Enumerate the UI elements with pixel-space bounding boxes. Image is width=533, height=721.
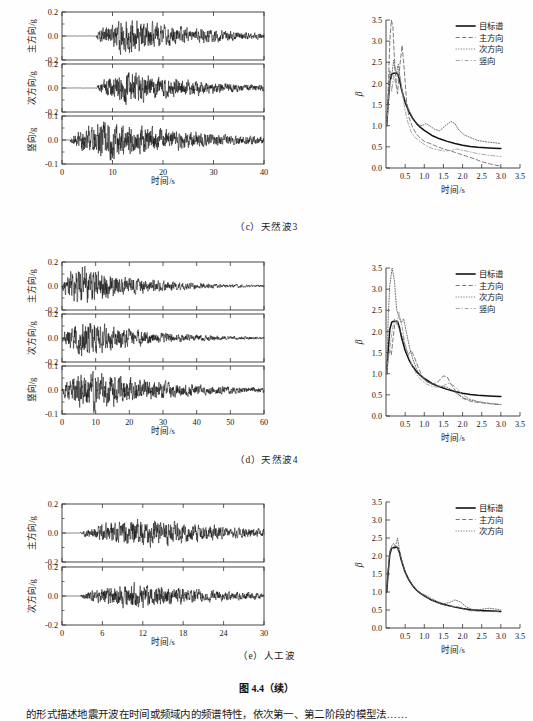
legend: 目标谱主方向次方向竖向 (456, 21, 504, 65)
svg-text:0.0: 0.0 (48, 529, 58, 538)
accel-trace-竖向 (62, 366, 264, 414)
legend-label-目标谱: 目标谱 (479, 21, 504, 31)
spectrum-column-c: 0.00.51.01.52.02.53.03.50.51.01.52.02.53… (352, 10, 530, 202)
svg-text:2.5: 2.5 (477, 632, 487, 641)
svg-text:-0.2: -0.2 (45, 621, 58, 630)
svg-text:0.5: 0.5 (400, 420, 410, 429)
svg-text:0.0: 0.0 (48, 136, 58, 145)
series-主方向 (387, 547, 501, 612)
panel-caption-c: （c）天然波3 (0, 219, 533, 233)
series-目标谱 (387, 73, 501, 148)
svg-text:2.0: 2.0 (372, 328, 382, 337)
svg-text:0.2: 0.2 (48, 563, 58, 572)
svg-text:40: 40 (193, 418, 201, 427)
svg-text:2.0: 2.0 (457, 172, 467, 181)
response-spectrum-chart-c: 0.00.51.01.52.02.53.03.50.51.01.52.02.53… (352, 10, 530, 202)
svg-text:3.0: 3.0 (372, 285, 382, 294)
svg-text:时间/s: 时间/s (151, 425, 175, 436)
svg-text:0.0: 0.0 (48, 282, 58, 291)
svg-text:0.0: 0.0 (48, 334, 58, 343)
svg-text:0.5: 0.5 (372, 606, 382, 615)
svg-text:0.2: 0.2 (48, 8, 58, 17)
svg-text:0.5: 0.5 (400, 632, 410, 641)
panel-caption-d: （d）天然波4 (0, 452, 533, 466)
svg-text:2.5: 2.5 (372, 306, 382, 315)
legend-label-次方向: 次方向 (479, 44, 503, 54)
svg-text:竖向/g: 竖向/g (26, 377, 37, 402)
svg-text:0.0: 0.0 (48, 386, 58, 395)
svg-text:1.0: 1.0 (419, 632, 429, 641)
svg-text:2.5: 2.5 (372, 58, 382, 67)
svg-text:3.0: 3.0 (496, 420, 506, 429)
svg-text:3.5: 3.5 (515, 632, 525, 641)
legend-label-竖向: 竖向 (479, 304, 495, 314)
accel-trace-次方向 (62, 314, 264, 362)
svg-text:时间/s: 时间/s (441, 184, 465, 195)
legend-label-主方向: 主方向 (479, 281, 503, 291)
accelerogram-group-e: 0.20.0-0.2主方向/g0.20.0-0.2次方向/g0612182430… (24, 498, 272, 647)
svg-text:0.0: 0.0 (48, 32, 58, 41)
legend: 目标谱主方向次方向竖向 (456, 269, 504, 314)
svg-text:3.0: 3.0 (496, 172, 506, 181)
accel-trace-主方向 (62, 504, 264, 562)
accel-trace-主方向 (62, 12, 264, 60)
body-text: 的形式描述地震开波在时间或频域内的频谱特性，依次第一、第二阶段的模型法…… (26, 706, 511, 721)
svg-text:次方向/g: 次方向/g (26, 70, 37, 104)
svg-text:3.0: 3.0 (372, 37, 382, 46)
svg-text:β: β (354, 339, 364, 345)
svg-text:时间/s: 时间/s (151, 175, 175, 186)
svg-text:主方向/g: 主方向/g (26, 18, 37, 52)
svg-text:次方向/g: 次方向/g (26, 578, 37, 612)
svg-text:1.0: 1.0 (372, 588, 382, 597)
spectrum-column-e: 0.00.51.01.52.02.53.03.50.51.01.52.02.53… (352, 492, 530, 662)
svg-text:0: 0 (60, 629, 64, 638)
legend-label-主方向: 主方向 (479, 515, 503, 525)
series-竖向 (387, 71, 501, 157)
svg-text:1.5: 1.5 (372, 570, 382, 579)
svg-text:0.2: 0.2 (48, 60, 58, 69)
svg-text:1.5: 1.5 (438, 172, 448, 181)
series-竖向 (387, 312, 501, 404)
svg-text:3.0: 3.0 (372, 516, 382, 525)
svg-text:1.5: 1.5 (438, 420, 448, 429)
svg-text:3.5: 3.5 (372, 498, 382, 507)
svg-text:10: 10 (92, 418, 100, 427)
accelerogram-group-c: 0.20.0-0.2主方向/g0.20.0-0.2次方向/g0.10.0-0.1… (24, 6, 272, 186)
svg-text:1.0: 1.0 (419, 420, 429, 429)
svg-text:0.0: 0.0 (48, 84, 58, 93)
legend-label-次方向: 次方向 (479, 292, 503, 302)
svg-text:1.0: 1.0 (419, 172, 429, 181)
svg-text:-0.1: -0.1 (45, 160, 58, 169)
svg-text:-0.1: -0.1 (45, 410, 58, 419)
accelerogram-column-d: 0.20.0-0.2主方向/g0.20.0-0.2次方向/g0.10.0-0.1… (24, 256, 272, 436)
svg-text:3.0: 3.0 (496, 632, 506, 641)
series-目标谱 (387, 547, 501, 611)
legend-label-目标谱: 目标谱 (479, 503, 504, 513)
svg-text:0.1: 0.1 (48, 362, 58, 371)
response-spectrum-chart-e: 0.00.51.01.52.02.53.03.50.51.01.52.02.53… (352, 492, 530, 662)
svg-text:18: 18 (179, 629, 187, 638)
svg-text:20: 20 (125, 418, 133, 427)
svg-text:2.5: 2.5 (477, 172, 487, 181)
series-次方向 (387, 60, 501, 143)
accel-trace-主方向 (62, 262, 264, 310)
figure-title: 图 4.4（续） (0, 680, 533, 695)
spectrum-column-d: 0.00.51.01.52.02.53.03.50.51.01.52.02.53… (352, 258, 530, 450)
response-spectrum-chart-d: 0.00.51.01.52.02.53.03.50.51.01.52.02.53… (352, 258, 530, 450)
svg-text:β: β (354, 562, 364, 568)
svg-text:2.0: 2.0 (372, 552, 382, 561)
svg-text:0.0: 0.0 (372, 412, 382, 421)
svg-text:3.5: 3.5 (515, 420, 525, 429)
svg-text:主方向/g: 主方向/g (26, 515, 37, 549)
svg-text:2.5: 2.5 (372, 534, 382, 543)
svg-text:3.5: 3.5 (372, 16, 382, 25)
svg-text:0.5: 0.5 (400, 172, 410, 181)
svg-text:2.0: 2.0 (372, 80, 382, 89)
legend: 目标谱主方向次方向 (456, 503, 504, 536)
svg-text:1.5: 1.5 (372, 101, 382, 110)
svg-text:时间/s: 时间/s (441, 432, 465, 443)
accelerogram-group-d: 0.20.0-0.2主方向/g0.20.0-0.2次方向/g0.10.0-0.1… (24, 256, 272, 436)
svg-text:6: 6 (100, 629, 104, 638)
svg-text:3.5: 3.5 (515, 172, 525, 181)
